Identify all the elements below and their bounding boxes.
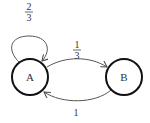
label-a-a: 2 3 xyxy=(25,1,33,23)
node-a: A xyxy=(12,59,48,95)
edge-b-a xyxy=(44,90,111,101)
node-b: B xyxy=(106,59,142,95)
svg-text:B: B xyxy=(120,71,127,83)
label-b-a: 1 xyxy=(74,107,79,118)
label-a-b: 1 3 xyxy=(73,39,81,61)
svg-text:3: 3 xyxy=(75,50,80,61)
svg-text:1: 1 xyxy=(75,39,80,50)
svg-text:2: 2 xyxy=(27,1,32,12)
svg-text:A: A xyxy=(26,71,34,83)
svg-text:3: 3 xyxy=(27,12,32,23)
markov-diagram: 2 3 1 3 1 A B xyxy=(0,0,150,123)
